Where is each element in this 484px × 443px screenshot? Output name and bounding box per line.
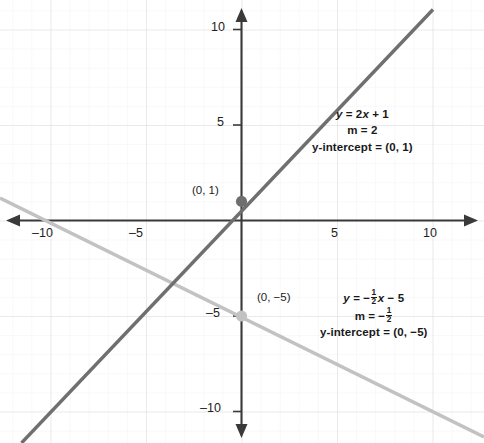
y-tick-label-10: 10 <box>211 20 225 34</box>
fraction-one-half-slope: 12 <box>386 307 393 325</box>
annotation-line-1-equation: y = 2x + 1 <box>312 106 413 122</box>
x-tick-label-neg5: –5 <box>129 226 143 240</box>
annotation-line-2-slope: m = −12 <box>320 307 428 325</box>
y-tick-label-neg5: –5 <box>206 306 220 320</box>
marker-point-0-1 <box>236 196 247 207</box>
annotation-line-2-equation: y = −12x − 5 <box>320 289 428 307</box>
fraction-one-half: 12 <box>371 289 378 307</box>
y-tick-label-neg10: –10 <box>200 401 221 415</box>
coordinate-graph: y = 2x + 1 m = 2 y-intercept = (0, 1) y … <box>0 0 484 443</box>
x-tick-label-neg10: –10 <box>32 226 53 240</box>
point-label-0-neg5: (0, −5) <box>257 291 291 303</box>
annotation-line-1: y = 2x + 1 m = 2 y-intercept = (0, 1) <box>312 106 413 155</box>
marker-point-0-neg5 <box>236 310 247 321</box>
annotation-line-1-slope: m = 2 <box>312 122 413 138</box>
annotation-line-2: y = −12x − 5 m = −12 y-intercept = (0, −… <box>320 289 428 340</box>
x-tick-label-10: 10 <box>423 226 437 240</box>
annotation-line-1-intercept: y-intercept = (0, 1) <box>312 139 413 155</box>
point-label-0-1: (0, 1) <box>192 184 219 196</box>
plot-canvas <box>0 0 484 443</box>
y-tick-label-5: 5 <box>217 115 224 129</box>
annotation-line-2-intercept: y-intercept = (0, −5) <box>320 324 428 340</box>
x-tick-label-5: 5 <box>331 226 338 240</box>
